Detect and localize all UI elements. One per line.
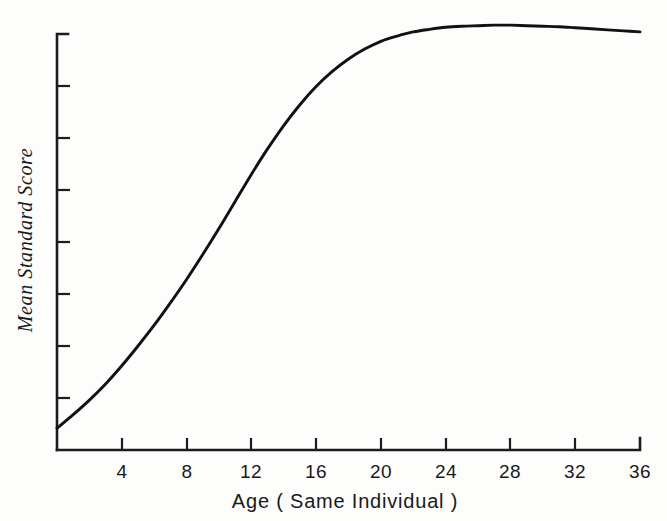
x-tick-label-4: 4: [116, 461, 127, 482]
y-axis-ticks: [57, 86, 70, 398]
x-tick-label-36: 36: [629, 461, 651, 482]
x-tick-label-20: 20: [370, 461, 392, 482]
x-tick-label-8: 8: [181, 461, 192, 482]
mean-standard-score-curve: [57, 25, 640, 428]
y-axis-title: Mean Standard Score: [14, 148, 36, 333]
x-tick-label-32: 32: [564, 461, 586, 482]
x-tick-label-24: 24: [435, 461, 457, 482]
x-axis-line: [57, 438, 640, 450]
x-tick-label-16: 16: [305, 461, 327, 482]
x-axis-ticks: [122, 438, 575, 450]
x-tick-label-12: 12: [240, 461, 262, 482]
line-chart-canvas: 4 8 12 16 20 24 28 32 36 Age ( Same Indi…: [0, 0, 667, 521]
chart-figure: 4 8 12 16 20 24 28 32 36 Age ( Same Indi…: [0, 0, 667, 521]
x-tick-label-28: 28: [499, 461, 521, 482]
x-tick-labels: 4 8 12 16 20 24 28 32 36: [116, 461, 651, 482]
x-axis-title: Age ( Same Individual ): [232, 490, 458, 512]
